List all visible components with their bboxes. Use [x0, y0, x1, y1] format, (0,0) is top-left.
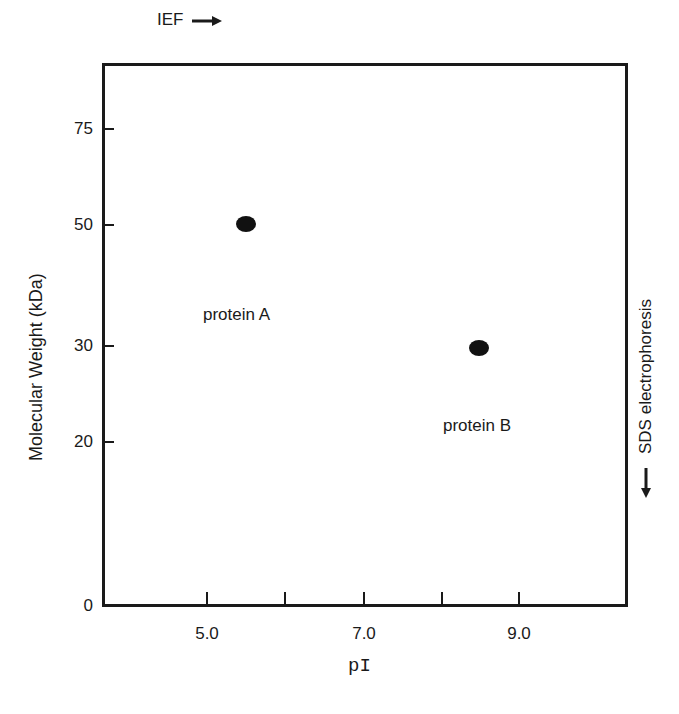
y-tick-20 — [102, 441, 114, 443]
x-tick-label-9: 9.0 — [489, 624, 549, 644]
y-tick-50 — [102, 224, 114, 226]
y-tick-30 — [102, 345, 114, 347]
x-tick-6 — [284, 592, 286, 604]
y-tick-label-0: 0 — [53, 596, 93, 616]
arrow-down-icon — [640, 468, 652, 498]
y-axis-label: Molecular Weight (kDa) — [26, 273, 47, 461]
y-tick-label-75: 75 — [53, 119, 93, 139]
label-protein-a: protein A — [203, 305, 270, 325]
x-tick-label-7: 7.0 — [334, 624, 394, 644]
data-point-protein-a — [236, 216, 256, 232]
plot-area — [102, 63, 628, 607]
x-tick-5 — [206, 592, 208, 604]
arrow-right-icon — [192, 15, 222, 27]
y-tick-75 — [102, 128, 114, 130]
x-tick-label-5: 5.0 — [177, 624, 237, 644]
x-tick-7 — [363, 592, 365, 604]
ief-annotation: IEF — [157, 8, 222, 32]
x-axis-label: pI — [348, 655, 371, 677]
y-tick-label-30: 30 — [53, 336, 93, 356]
x-tick-9 — [518, 592, 520, 604]
y-tick-label-50: 50 — [53, 215, 93, 235]
sds-annotation: SDS electrophoresis — [636, 248, 660, 500]
x-tick-8 — [441, 592, 443, 604]
label-protein-b: protein B — [443, 416, 511, 436]
ief-label: IEF — [157, 10, 183, 29]
data-point-protein-b — [469, 340, 489, 356]
sds-label: SDS electrophoresis — [636, 299, 656, 454]
y-tick-label-20: 20 — [53, 432, 93, 452]
